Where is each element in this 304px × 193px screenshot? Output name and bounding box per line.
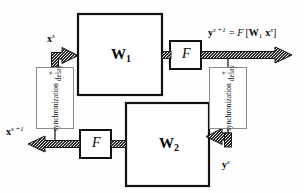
eq-w-subscript: 1 <box>259 32 263 40</box>
eq-lhs-superscript: s +1 <box>213 26 226 34</box>
x-s1-superscript: s +1 <box>11 125 24 133</box>
output-equation: ys +1=F[W1xs] <box>208 27 276 40</box>
eq-equals: = <box>229 27 235 38</box>
f-top-block-label: F <box>182 47 191 61</box>
signal-label-x-s-plus-1: xs +1 <box>6 126 24 137</box>
x-s-superscript: s <box>52 32 55 40</box>
w1-label-subscript: 1 <box>126 53 131 64</box>
y-s-superscript: s <box>227 158 230 166</box>
sync-delay-right-line2: delay <box>228 65 236 81</box>
f-bottom-block-label: F <box>92 136 101 150</box>
signal-label-y-s: ys <box>222 159 230 170</box>
arrow-f-bottom-to-output <box>28 136 80 152</box>
w1-block-label: W1 <box>111 47 131 64</box>
w2-block-label: W2 <box>159 136 179 153</box>
w2-label-subscript: 2 <box>174 142 179 153</box>
sync-delay-right-text: synchronization + delay <box>220 65 236 131</box>
sync-delay-right-line1: synchronization <box>223 83 232 131</box>
sync-delay-box-left: synchronization + delay <box>36 67 74 129</box>
sync-delay-left-text: synchronization + delay <box>47 65 63 131</box>
sync-delay-left-line1: synchronization <box>50 83 59 131</box>
sync-delay-box-right: synchronization + delay <box>209 67 247 129</box>
block-diagram-figure: synchronization + delay synchronization … <box>0 0 304 193</box>
eq-close-bracket: ] <box>273 27 276 38</box>
arrow-w1-to-f-top <box>162 52 171 59</box>
arrow-w2-to-f-bottom <box>111 141 126 148</box>
signal-label-x-s: xs <box>47 33 55 44</box>
arrow-f-top-to-output <box>201 47 292 63</box>
w1-label-base: W <box>111 46 126 62</box>
w2-label-base: W <box>159 135 174 151</box>
eq-w-base: W <box>249 27 259 38</box>
sync-delay-left-line2: delay <box>55 65 63 81</box>
eq-function: F <box>237 27 243 38</box>
